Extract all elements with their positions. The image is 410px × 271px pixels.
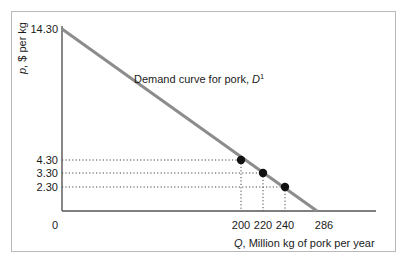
x-axis-title-rest: , Million kg of pork per year <box>243 237 375 249</box>
y-axis-title-symbol: p <box>16 68 28 75</box>
demand-curve-chart: 14.30 4.30 3.30 2.30 0 200 220 240 286 p… <box>12 12 395 251</box>
demand-curve-annotation: Demand curve for pork, D1 <box>134 72 264 85</box>
x-tick-label-240: 240 <box>276 219 294 231</box>
y-tick-label-430: 4.30 <box>37 154 58 166</box>
y-tick-label-230: 2.30 <box>37 181 58 193</box>
demand-curve-annotation-symbol: D <box>252 73 260 85</box>
x-axis-title: Q, Million kg of pork per year <box>234 237 375 249</box>
y-tick-label-330: 3.30 <box>37 167 58 179</box>
data-point-240-230 <box>281 183 289 191</box>
y-axis-title-rest: , $ per kg <box>16 22 28 68</box>
data-point-200-430 <box>237 156 245 164</box>
data-point-220-330 <box>259 169 267 177</box>
demand-curve-line <box>62 29 317 211</box>
y-tick-label-1430: 14.30 <box>30 23 58 35</box>
x-tick-label-220: 220 <box>254 219 272 231</box>
figure-canvas: 14.30 4.30 3.30 2.30 0 200 220 240 286 p… <box>0 0 410 271</box>
demand-curve-annotation-prefix: Demand curve for pork, <box>134 73 252 85</box>
y-axis-title: p, $ per kg <box>16 22 28 75</box>
chart-frame: 14.30 4.30 3.30 2.30 0 200 220 240 286 p… <box>11 11 396 252</box>
x-tick-label-200: 200 <box>232 219 250 231</box>
origin-label: 0 <box>52 219 58 231</box>
demand-curve-annotation-superscript: 1 <box>260 72 264 81</box>
x-tick-label-286: 286 <box>315 219 333 231</box>
